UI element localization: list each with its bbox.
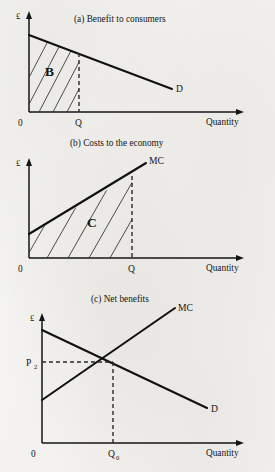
- panel-c-caption: (c) Net benefits: [91, 294, 149, 305]
- panel-c-demand-curve-label: D: [211, 403, 218, 414]
- panel-a-region-label: B: [45, 64, 54, 79]
- panel-c-y-tick-label: P 2: [26, 357, 37, 370]
- panel-c-x-axis-label: Quantity: [206, 448, 239, 458]
- panel-a-demand-curve-label: D: [176, 83, 183, 94]
- panel-c-mc-curve: [42, 308, 175, 400]
- panel-b-caption: (b) Costs to the economy: [70, 138, 164, 149]
- economics-figure: (a) Benefit to consumers £ Quantity: [0, 0, 275, 472]
- panel-a: (a) Benefit to consumers £ Quantity: [11, 11, 244, 128]
- panel-c-mc-curve-label: MC: [178, 302, 193, 313]
- panel-c-x-tick-letter: Q: [108, 448, 115, 459]
- panel-b-x-tick-label: Q: [128, 263, 135, 274]
- panel-b-x-axis-arrow: [236, 255, 244, 261]
- panel-a-x-tick-label: Q: [75, 117, 82, 128]
- panel-a-demand-curve: [29, 35, 172, 89]
- panel-c: (c) Net benefits £ Quantity D MC P 2: [26, 294, 244, 461]
- panel-b-mc-curve-label: MC: [149, 155, 164, 166]
- panel-a-x-axis-label: Quantity: [206, 117, 239, 127]
- panel-a-y-axis-label: £: [16, 11, 21, 21]
- panel-a-origin-label: 0: [18, 118, 23, 128]
- panel-c-x-tick-label: Q 0: [108, 448, 120, 461]
- panel-a-caption: (a) Benefit to consumers: [74, 14, 166, 25]
- panel-b-origin-label: 0: [18, 264, 23, 274]
- panel-b-region-label: C: [87, 215, 97, 230]
- figure-page: (a) Benefit to consumers £ Quantity: [0, 0, 275, 472]
- panel-b-y-axis-arrow: [26, 158, 32, 166]
- panel-c-origin-label: 0: [31, 449, 36, 459]
- panel-b-y-axis-label: £: [16, 158, 21, 168]
- panel-c-x-tick-subscript: 0: [116, 454, 120, 461]
- panel-a-y-axis-arrow: [26, 11, 32, 19]
- panel-c-y-axis-label: £: [30, 313, 35, 323]
- panel-b: (b) Costs to the economy £ Quantity: [5, 138, 244, 274]
- panel-c-y-tick-subscript: 2: [34, 363, 37, 370]
- panel-b-x-axis-label: Quantity: [206, 263, 239, 273]
- panel-c-x-axis-arrow: [236, 440, 244, 446]
- panel-a-x-axis-arrow: [236, 109, 244, 115]
- panel-c-y-tick-letter: P: [26, 357, 31, 368]
- panel-c-y-axis-arrow: [39, 313, 45, 321]
